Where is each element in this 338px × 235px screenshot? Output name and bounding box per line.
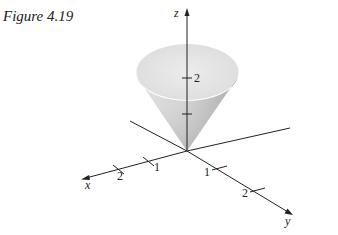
z-axis-label: z [173, 6, 179, 20]
x-tick-label-1: 1 [154, 160, 160, 174]
y-axis [187, 151, 288, 212]
x-tick-label-2: 2 [117, 169, 123, 183]
y-tick-label-2: 2 [242, 186, 248, 200]
z-tick-label-2: 2 [194, 71, 200, 85]
x-axis [86, 151, 187, 178]
z-arrow-icon [185, 8, 190, 16]
front-axes [81, 8, 293, 215]
back-axes [130, 121, 290, 151]
x-axis-label: x [84, 178, 91, 192]
y-tick-label-1: 1 [204, 165, 210, 179]
cone-diagram: z 2 x 1 2 y 1 2 [0, 0, 338, 235]
x-tick-1 [143, 157, 154, 166]
y-axis-label: y [284, 214, 291, 228]
x-axis-negative [187, 128, 290, 151]
